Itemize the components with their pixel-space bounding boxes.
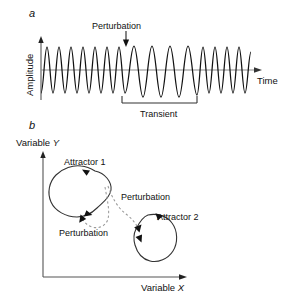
panel-b-perturbation-path-to-1 [82,187,109,228]
panel-b-perturbation-path-to-2 [108,186,138,228]
panel-b-x-axis [43,274,187,280]
panel-b-attractor-2-arrow-top [155,213,163,220]
panel-b-plot [0,0,291,304]
panel-b-attractor-1-loop [49,166,111,217]
panel-b-attractor-1-arrow-top [82,170,90,176]
panel-b-y-axis [40,151,45,277]
panel-b-attractor-2-arrow-left [136,235,143,243]
scientific-figure: a Perturbation Amplitude Time Transient [0,0,291,304]
